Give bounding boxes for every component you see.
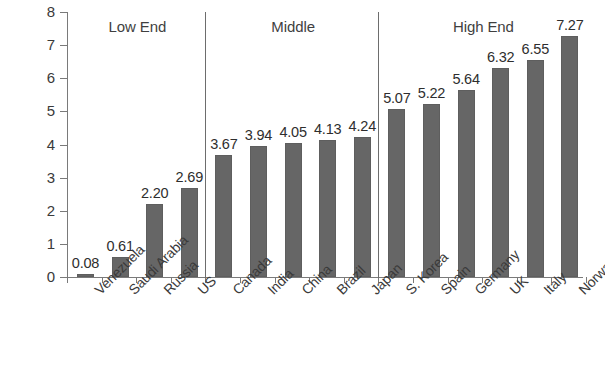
category-label: Venezuela [92,287,102,297]
category-label: UK [507,287,517,297]
y-axis-tick [60,12,67,13]
bar-value-label: 2.69 [167,170,211,185]
bar [458,90,475,277]
y-axis-line [67,12,68,278]
bar [492,68,509,277]
category-label: Brazil [334,287,344,297]
category-label: S. Korea [403,287,413,297]
bar [561,36,578,277]
y-axis-tick [60,78,67,79]
y-axis-tick-label: 2 [5,203,55,218]
bar-value-label: 7.27 [548,18,592,33]
y-axis-tick-label: 5 [5,103,55,118]
y-axis-tick-label: 1 [5,236,55,251]
group-header-high-end: High End [423,18,543,35]
bar-value-label: 6.55 [513,42,557,57]
bar [215,155,232,277]
y-axis-tick [60,178,67,179]
category-label: Germany [472,287,482,297]
bar-value-label: 2.20 [133,186,177,201]
bar [527,60,544,277]
y-axis-tick-label: 3 [5,170,55,185]
y-axis-tick-label: 7 [5,37,55,52]
y-axis-tick [60,277,67,278]
bar-value-label: 5.22 [410,86,454,101]
bar [77,274,94,277]
bar [354,137,371,277]
group-separator [378,12,379,278]
category-label: Russia [161,287,171,297]
category-label: China [299,287,309,297]
bar [388,109,405,277]
category-label: Canada [230,287,240,297]
x-axis-tick [67,277,68,283]
y-axis-tick-label: 4 [5,137,55,152]
category-label: Norway [576,287,586,297]
y-axis-tick [60,211,67,212]
y-axis-tick [60,244,67,245]
category-label: Saudi Arabia [126,287,136,297]
y-axis-tick [60,145,67,146]
y-axis-tick [60,111,67,112]
bar-value-label: 0.08 [64,256,108,271]
category-label: Italy [541,287,551,297]
category-label: Spain [438,287,448,297]
bar [285,143,302,277]
group-header-middle: Middle [233,18,353,35]
bar [319,140,336,277]
group-header-low-end: Low End [77,18,197,35]
category-label: Japan [368,287,378,297]
bar-chart: 876543210 Low EndMiddleHigh End 0.080.61… [0,0,605,368]
y-axis-tick-label: 8 [5,4,55,19]
category-label: US [195,287,205,297]
y-axis-tick-label: 0 [5,269,55,284]
y-axis-tick [60,45,67,46]
bar-value-label: 4.24 [340,119,384,134]
bar-value-label: 5.64 [444,72,488,87]
category-label: India [265,287,275,297]
y-axis-tick-label: 6 [5,70,55,85]
